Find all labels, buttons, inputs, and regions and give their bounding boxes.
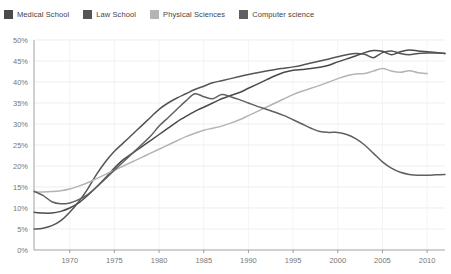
legend-swatch-icon xyxy=(239,10,248,19)
y-axis-tick-labels: 0%5%10%15%20%25%30%35%40%45%50% xyxy=(13,36,28,255)
y-tick-label: 10% xyxy=(13,204,28,213)
legend-label: Law School xyxy=(96,10,136,19)
x-tick-label: 2010 xyxy=(419,256,436,265)
y-tick-label: 45% xyxy=(13,57,28,66)
y-tick-label: 25% xyxy=(13,141,28,150)
series-line xyxy=(34,51,445,229)
x-axis-tick-labels: 197019751980198519901995200020052010 xyxy=(61,250,435,265)
plot-area: 0%5%10%15%20%25%30%35%40%45%50% 19701975… xyxy=(0,24,451,274)
x-tick-label: 1975 xyxy=(106,256,123,265)
chart-container: Medical School Law School Physical Scien… xyxy=(0,0,451,274)
x-tick-label: 1990 xyxy=(240,256,257,265)
legend-item-medical-school[interactable]: Medical School xyxy=(4,10,69,19)
legend-label: Physical Sciences xyxy=(163,10,225,19)
y-tick-label: 20% xyxy=(13,162,28,171)
series-line xyxy=(34,94,445,204)
x-tick-label: 2005 xyxy=(374,256,391,265)
x-tick-label: 1985 xyxy=(195,256,212,265)
x-tick-label: 1980 xyxy=(151,256,168,265)
legend-label: Medical School xyxy=(17,10,69,19)
legend-swatch-icon xyxy=(4,10,13,19)
legend-item-physical-sciences[interactable]: Physical Sciences xyxy=(150,10,225,19)
y-tick-label: 40% xyxy=(13,78,28,87)
x-tick-label: 1970 xyxy=(61,256,78,265)
y-tick-label: 50% xyxy=(13,36,28,45)
series-line xyxy=(34,69,427,193)
line-chart-svg: 0%5%10%15%20%25%30%35%40%45%50% 19701975… xyxy=(0,24,451,274)
y-tick-label: 30% xyxy=(13,120,28,129)
gridlines xyxy=(34,40,445,250)
legend-swatch-icon xyxy=(83,10,92,19)
y-tick-label: 35% xyxy=(13,99,28,108)
legend-label: Computer science xyxy=(252,10,314,19)
y-tick-label: 0% xyxy=(17,246,28,255)
legend-item-computer-science[interactable]: Computer science xyxy=(239,10,314,19)
y-tick-label: 15% xyxy=(13,183,28,192)
x-tick-label: 1995 xyxy=(285,256,302,265)
legend-item-law-school[interactable]: Law School xyxy=(83,10,136,19)
y-tick-label: 5% xyxy=(17,225,28,234)
chart-legend: Medical School Law School Physical Scien… xyxy=(4,6,328,22)
legend-swatch-icon xyxy=(150,10,159,19)
x-tick-label: 2000 xyxy=(329,256,346,265)
data-series-group xyxy=(34,50,445,229)
